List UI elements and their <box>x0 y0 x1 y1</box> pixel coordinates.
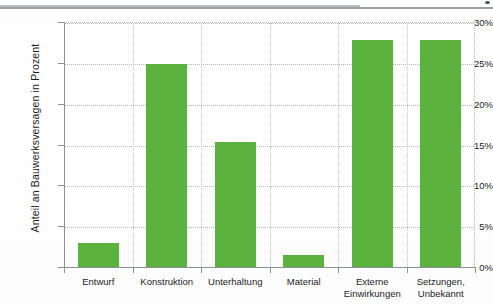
category-separator <box>407 23 408 267</box>
category-separator <box>201 23 202 267</box>
x-tick-mark <box>64 267 65 273</box>
category-separator <box>270 23 271 267</box>
y-axis-line <box>64 22 65 268</box>
x-category-label-line: Entwurf <box>64 276 133 288</box>
x-category-label: Unterhaltung <box>201 276 270 288</box>
x-tick-mark <box>270 267 271 273</box>
x-category-label: Konstruktion <box>133 276 202 288</box>
category-separator <box>133 23 134 267</box>
category-separator <box>338 23 339 267</box>
bar-chart: Anteil an Bauwerksversagen in Prozent 0%… <box>0 12 493 304</box>
bar <box>283 255 324 267</box>
x-tick-mark <box>338 267 339 273</box>
x-tick-mark <box>475 267 476 273</box>
x-tick-mark <box>201 267 202 273</box>
x-category-label-line: Externe <box>338 276 407 288</box>
bar <box>146 64 187 267</box>
bar <box>420 40 461 267</box>
x-category-label: ExterneEinwirkungen <box>338 276 407 299</box>
scanned-page: Anteil an Bauwerksversagen in Prozent 0%… <box>0 0 493 304</box>
x-category-label-line: Material <box>270 276 339 288</box>
x-tick-mark <box>407 267 408 273</box>
x-category-label-line: Unterhaltung <box>201 276 270 288</box>
x-category-label-line: Einwirkungen <box>338 288 407 300</box>
scan-speck-icon <box>485 1 490 4</box>
bar <box>215 142 256 267</box>
x-category-label-line: Setzungen, <box>407 276 476 288</box>
bar <box>78 243 119 268</box>
x-category-label: Material <box>270 276 339 288</box>
bar <box>352 40 393 267</box>
y-axis-title: Anteil an Bauwerksversagen in Prozent <box>29 18 41 258</box>
x-tick-mark <box>133 267 134 273</box>
x-category-label-line: Konstruktion <box>133 276 202 288</box>
x-category-label: Setzungen,Unbekannt <box>407 276 476 299</box>
x-category-label: Entwurf <box>64 276 133 288</box>
x-category-label-line: Unbekannt <box>407 288 476 300</box>
plot-area <box>64 22 475 267</box>
page-top-rule <box>0 7 493 9</box>
